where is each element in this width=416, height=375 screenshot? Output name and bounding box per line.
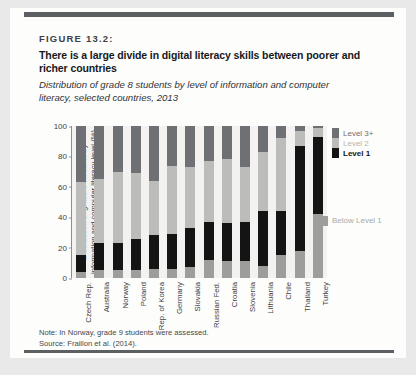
bar-segment-l1: [113, 243, 123, 270]
bar-segment-l1: [276, 211, 286, 255]
y-tick-100: 100: [54, 122, 67, 131]
bar-segment-l3: [76, 126, 86, 182]
bar-segment-l1: [258, 211, 268, 266]
bar-column[interactable]: Germany: [167, 126, 177, 278]
bar-segment-l3: [131, 126, 141, 173]
bar-segment-l2: [131, 173, 141, 238]
bar-segment-b1: [276, 255, 286, 278]
figure-subhead: Distribution of grade 8 students by leve…: [39, 79, 364, 104]
bar-segment-l2: [185, 167, 195, 228]
bar-segment-l2: [204, 161, 214, 222]
bar-segment-l2: [94, 179, 104, 243]
bar-segment-l2: [222, 159, 232, 223]
legend-item-level2: Level 2: [332, 138, 373, 148]
bar-segment-b1: [295, 251, 305, 278]
legend-item-level1: Level 1: [332, 148, 373, 158]
bar-segment-l3: [167, 126, 177, 166]
bar-segment-l3: [204, 126, 214, 161]
x-axis-label: Slovenia: [248, 282, 257, 312]
legend-label-level2: Level 2: [343, 139, 369, 148]
bar-segment-b1: [222, 261, 232, 278]
bar-segment-l2: [240, 167, 250, 222]
figure-note: Note: In Norway, grade 9 students were a…: [39, 328, 339, 339]
legend-item-level3: Level 3+: [332, 128, 373, 138]
bar-column[interactable]: Chile: [276, 126, 286, 278]
bar-column[interactable]: Thailand: [295, 126, 305, 278]
bar-segment-b1: [185, 267, 195, 278]
x-axis-label: Russian Fed.: [212, 282, 221, 328]
bar-segment-b1: [258, 266, 268, 278]
y-tick-40: 40: [58, 213, 67, 222]
bar-segment-l3: [222, 126, 232, 159]
bar-segment-l3: [276, 126, 286, 138]
legend-label-level1: Level 1: [343, 149, 370, 158]
x-axis-label: Slovakia: [193, 282, 202, 311]
bar-column[interactable]: Slovakia: [185, 126, 195, 278]
bar-segment-b1: [113, 270, 123, 278]
bar-segment-b1: [131, 270, 141, 278]
x-axis-label: Norway: [121, 282, 130, 308]
bar-segment-l1: [204, 222, 214, 260]
bar-segment-l1: [295, 146, 305, 251]
x-axis-label: Croatia: [230, 282, 239, 307]
bar-column[interactable]: Norway: [113, 126, 123, 278]
bar-column[interactable]: Poland: [131, 126, 141, 278]
legend-swatch-below-level1-icon: [321, 216, 328, 226]
legend-label-level3: Level 3+: [343, 129, 373, 138]
figure-headline: There is a large divide in digital liter…: [39, 49, 369, 75]
y-tick-60: 60: [58, 182, 67, 191]
legend-item-below-level1: Below Level 1: [332, 216, 382, 225]
y-tick-0: 0: [63, 274, 67, 283]
y-tick-80: 80: [58, 152, 67, 161]
figure-number-label: FIGURE 13.2:: [39, 33, 114, 44]
bar-column[interactable]: Lithuania: [258, 126, 268, 278]
bar-segment-l1: [185, 228, 195, 268]
bar-segment-l2: [313, 128, 323, 137]
bar-column[interactable]: Czech Rep.: [76, 126, 86, 278]
bar-segment-l1: [167, 234, 177, 269]
bar-segment-l2: [258, 152, 268, 211]
card-top-rule: [24, 12, 394, 17]
bar-column[interactable]: Slovenia: [240, 126, 250, 278]
bar-segment-l3: [113, 126, 123, 172]
bar-segment-l2: [149, 181, 159, 236]
bar-segment-b1: [149, 269, 159, 278]
bar-segment-l1: [94, 243, 104, 270]
bar-segment-l3: [94, 126, 104, 179]
bar-segment-b1: [76, 272, 86, 278]
bar-column[interactable]: Turkey: [313, 126, 323, 278]
bar-segment-l3: [185, 126, 195, 167]
x-axis-label: Rep. of Korea: [157, 282, 166, 330]
legend-swatch-level2-icon: [332, 138, 339, 148]
x-axis-label: Thailand: [303, 282, 312, 312]
x-axis-label: Turkey: [321, 282, 330, 306]
figure-card: FIGURE 13.2: There is a large divide in …: [10, 8, 406, 358]
figure-source: Source: Fraillon et al. (2014).: [39, 339, 339, 350]
bar-segment-l2: [167, 166, 177, 234]
bar-segment-l3: [240, 126, 250, 167]
bar-column[interactable]: Croatia: [222, 126, 232, 278]
bar-segment-l1: [222, 223, 232, 261]
x-axis-label: Germany: [175, 282, 184, 314]
bar-segment-b1: [167, 269, 177, 278]
chart-plot-area: Distribution of grade 8 students by info…: [72, 126, 327, 278]
bar-segment-b1: [94, 270, 104, 278]
bar-segment-l3: [258, 126, 268, 152]
bar-column[interactable]: Russian Fed.: [204, 126, 214, 278]
bar-segment-b1: [204, 260, 214, 278]
x-axis-label: Poland: [139, 282, 148, 306]
y-tick-20: 20: [58, 243, 67, 252]
card-bottom-rule: [24, 350, 394, 353]
bar-segment-l2: [76, 182, 86, 255]
x-axis-label: Australia: [102, 282, 111, 312]
bar-column[interactable]: Rep. of Korea: [149, 126, 159, 278]
bar-segment-l2: [295, 131, 305, 146]
chart-legend: Level 3+ Level 2 Level 1: [332, 128, 373, 158]
legend-swatch-level1-icon: [332, 148, 339, 158]
x-axis-label: Lithuania: [266, 282, 275, 314]
bar-segment-l1: [240, 222, 250, 262]
bar-column[interactable]: Australia: [94, 126, 104, 278]
bar-segment-l2: [113, 172, 123, 243]
y-axis-line: [71, 126, 72, 278]
bar-segment-l3: [149, 126, 159, 181]
